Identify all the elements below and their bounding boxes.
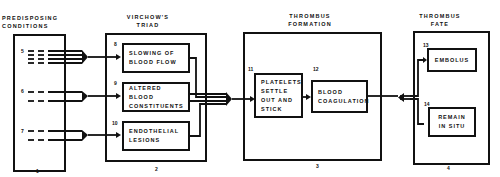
fate-footer: 4 [447, 165, 450, 171]
box-text: LESIONS [129, 136, 188, 145]
formation-platelets-settle: PLATELETS SETTLE OUT AND STICK [254, 73, 303, 118]
fate-embolus: EMBOLUS [427, 48, 477, 72]
predisposing-footer: 1 [36, 168, 39, 174]
box-text: OUT AND [261, 96, 301, 105]
predisposing-header: PREDISPOSING CONDITIONS [2, 14, 62, 30]
triad-altered-blood-constituents: ALTERED BLOOD CONSTITUENTS [122, 82, 190, 112]
header-line: PREDISPOSING [2, 14, 62, 22]
box-text: COAGULATION [318, 97, 366, 106]
header-line: THROMBUS [410, 12, 470, 20]
triad-number-9: 9 [114, 80, 117, 86]
group-number-6: 6 [21, 88, 24, 94]
group-number-5: 5 [21, 48, 24, 54]
formation-header: THROMBUS FORMATION [280, 12, 340, 28]
box-text: STICK [261, 105, 301, 114]
box-text: EMBOLUS [435, 56, 470, 65]
triad-number-10: 10 [112, 120, 118, 126]
header-line: TRIAD [118, 21, 178, 29]
virchow-footer: 2 [155, 166, 158, 172]
header-line: FATE [410, 20, 470, 28]
header-line: VIRCHOW'S [118, 13, 178, 21]
box-text: BLOOD FLOW [129, 58, 188, 67]
box-text: REMAIN [438, 113, 466, 122]
fate-remain-in-situ: REMAIN IN SITU [428, 107, 476, 137]
triad-endothelial-lesions: ENDOTHELIAL LESIONS [122, 121, 190, 151]
box-text: PLATELETS [261, 78, 301, 87]
triad-slowing-blood-flow: SLOWING OF BLOOD FLOW [122, 43, 190, 73]
box-text: SLOWING OF [129, 49, 188, 58]
header-line: CONDITIONS [2, 22, 62, 30]
formation-number-11: 11 [248, 66, 253, 72]
header-line: THROMBUS [280, 12, 340, 20]
predisposing-box [13, 34, 66, 172]
box-text: SETTLE [261, 87, 301, 96]
triad-number-8: 8 [114, 41, 117, 47]
fate-header: THROMBUS FATE [410, 12, 470, 28]
virchow-header: VIRCHOW'S TRIAD [118, 13, 178, 29]
box-text: ALTERED BLOOD [129, 84, 188, 102]
formation-footer: 3 [316, 163, 319, 169]
box-text: ENDOTHELIAL [129, 127, 188, 136]
box-text: CONSTITUENTS [129, 102, 188, 111]
box-text: BLOOD [318, 88, 366, 97]
box-text: IN SITU [439, 122, 466, 131]
formation-number-12: 12 [313, 66, 319, 72]
formation-blood-coagulation: BLOOD COAGULATION [311, 80, 368, 113]
header-line: FORMATION [280, 20, 340, 28]
group-number-7: 7 [21, 128, 24, 134]
